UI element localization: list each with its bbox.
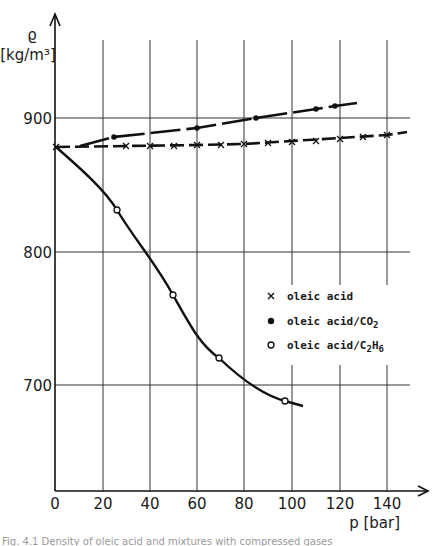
axes <box>50 14 428 496</box>
vertical-gridlines <box>103 40 387 491</box>
x-axis-label: p [bar] <box>349 514 400 532</box>
y-tick-700: 700 <box>23 377 52 395</box>
y-tick-800: 800 <box>23 244 52 262</box>
open-circle-icon <box>268 342 274 348</box>
series-oleic-acid-c2h6 <box>56 147 303 406</box>
x-tick-40: 40 <box>140 495 159 513</box>
y-axis-symbol: ϱ <box>27 26 37 44</box>
x-tick-140: 140 <box>373 495 402 513</box>
x-tick-20: 20 <box>93 495 112 513</box>
y-tick-900: 900 <box>23 110 52 128</box>
svg-text:oleic acid/CO2: oleic acid/CO2 <box>287 315 379 330</box>
svg-text:oleic acid: oleic acid <box>287 290 353 303</box>
half-filled-circle-markers <box>111 103 338 140</box>
density-chart: ϱ [kg/m³] 900 800 700 0 20 40 60 80 100 … <box>0 0 433 546</box>
x-tick-0: 0 <box>50 495 60 513</box>
figure-caption: Fig. 4.1 Density of oleic acid and mixtu… <box>2 536 332 546</box>
x-tick-120: 120 <box>326 495 355 513</box>
half-filled-circle-icon <box>268 318 274 324</box>
x-tick-60: 60 <box>187 495 206 513</box>
y-axis-unit: [kg/m³] <box>0 46 56 64</box>
x-tick-100: 100 <box>278 495 307 513</box>
x-tick-80: 80 <box>234 495 253 513</box>
series-oleic-acid <box>53 132 407 150</box>
